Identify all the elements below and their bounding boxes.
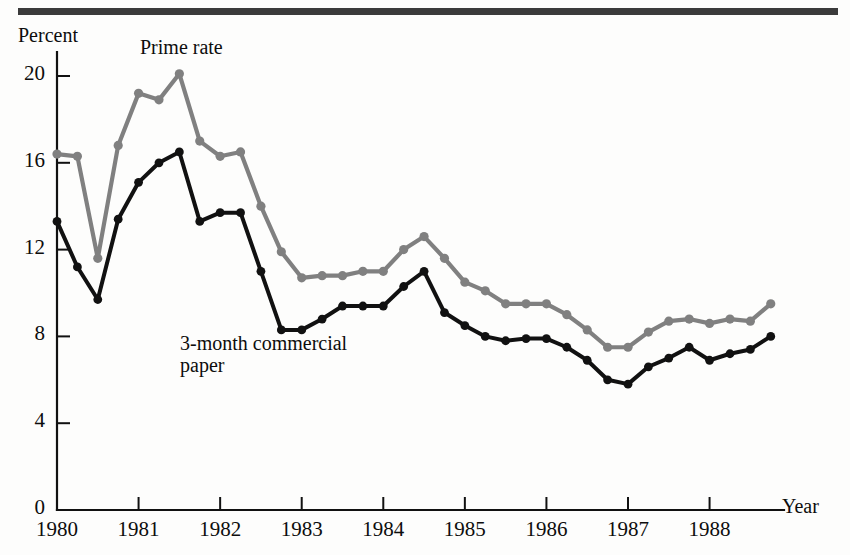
chart-figure: Percent Year 048121620 19801981198219831… [0,0,850,555]
data-point [358,302,367,311]
chart-series-layer [52,69,775,388]
data-point [420,267,429,276]
data-point [623,343,632,352]
x-tick-label: 1982 [180,518,260,541]
chart-plot-area [0,0,850,555]
data-point [134,89,143,98]
data-point [134,178,143,187]
data-point [73,263,82,272]
data-point [440,308,449,317]
data-point [297,273,306,282]
y-tick-label: 8 [5,322,45,345]
data-point [216,208,225,217]
data-point [53,217,62,226]
x-tick-label: 1984 [343,518,423,541]
data-point [542,299,551,308]
series-annotation-line2: paper [180,354,347,376]
data-point [562,310,571,319]
data-point [195,217,204,226]
data-point [399,282,408,291]
data-point [399,245,408,254]
y-axis-title: Percent [18,24,78,46]
data-point [277,247,286,256]
data-point [725,314,734,323]
data-point [624,380,633,389]
data-point [338,271,347,280]
data-point [460,321,469,330]
data-point [195,137,204,146]
data-point [501,299,510,308]
data-point [440,254,449,263]
x-tick-label: 1985 [425,518,505,541]
y-tick-label: 16 [5,149,45,172]
data-point [216,152,225,161]
data-point [522,334,531,343]
data-point [603,375,612,384]
data-point [644,362,653,371]
data-point [379,267,388,276]
data-point [603,343,612,352]
chart-axes [57,52,784,510]
data-point [358,267,367,276]
x-axis-title: Year [782,495,819,517]
data-point [114,141,123,150]
y-tick-label: 4 [5,409,45,432]
y-tick-label: 0 [5,496,45,519]
data-point [746,317,755,326]
data-point [175,69,184,78]
data-point [583,356,592,365]
data-point [419,232,428,241]
data-point [583,325,592,334]
data-point [705,319,714,328]
series-annotation-line1: 3-month commercial [180,332,347,354]
data-point [236,147,245,156]
data-point [705,356,714,365]
data-point [93,254,102,263]
data-point [746,345,755,354]
data-point [236,208,245,217]
series-annotation-commercial-paper: 3-month commercial paper [180,332,347,376]
data-point [685,314,694,323]
x-tick-label: 1986 [506,518,586,541]
data-point [175,148,184,157]
data-point [664,354,673,363]
data-point [481,286,490,295]
y-tick-label: 12 [5,236,45,259]
data-point [501,336,510,345]
data-point [52,150,61,159]
data-point [256,202,265,211]
x-tick-label: 1981 [99,518,179,541]
data-point [460,278,469,287]
series-line-commercial-paper [57,152,771,384]
data-point [318,271,327,280]
data-point [114,215,123,224]
x-tick-label: 1983 [262,518,342,541]
series-annotation-prime-rate: Prime rate [140,36,223,58]
data-point [766,299,775,308]
data-point [766,332,775,341]
data-point [379,302,388,311]
data-point [644,327,653,336]
data-point [257,267,266,276]
data-point [154,95,163,104]
data-point [73,152,82,161]
x-tick-label: 1980 [17,518,97,541]
data-point [93,295,102,304]
data-point [726,349,735,358]
data-point [481,332,490,341]
data-point [155,158,164,167]
data-point [664,317,673,326]
data-point [542,334,551,343]
data-point [562,343,571,352]
x-tick-label: 1987 [588,518,668,541]
y-tick-label: 20 [5,62,45,85]
series-line-prime-rate [57,74,771,347]
data-point [685,343,694,352]
data-point [521,299,530,308]
data-point [318,315,327,324]
x-tick-label: 1988 [670,518,750,541]
data-point [338,302,347,311]
